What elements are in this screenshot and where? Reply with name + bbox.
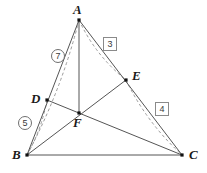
point-marker-c xyxy=(180,153,183,156)
point-marker-d xyxy=(45,98,48,101)
figure-canvas xyxy=(0,0,207,173)
region-label-4: 4 xyxy=(155,102,169,116)
point-marker-a xyxy=(77,18,80,21)
point-marker-b xyxy=(25,153,28,156)
vertex-label-c: C xyxy=(189,148,198,161)
vertex-label-b: B xyxy=(12,148,21,161)
vertex-label-e: E xyxy=(132,69,141,82)
geometry-figure: ABCDEF7534 xyxy=(0,0,207,173)
point-marker-e xyxy=(124,78,127,81)
region-label-5: 5 xyxy=(18,116,32,130)
vertex-label-d: D xyxy=(31,92,40,105)
vertex-label-a: A xyxy=(73,3,82,16)
side-AC xyxy=(79,20,182,155)
region-label-3: 3 xyxy=(103,37,117,51)
region-label-7: 7 xyxy=(51,49,65,63)
vertex-label-f: F xyxy=(73,116,82,129)
